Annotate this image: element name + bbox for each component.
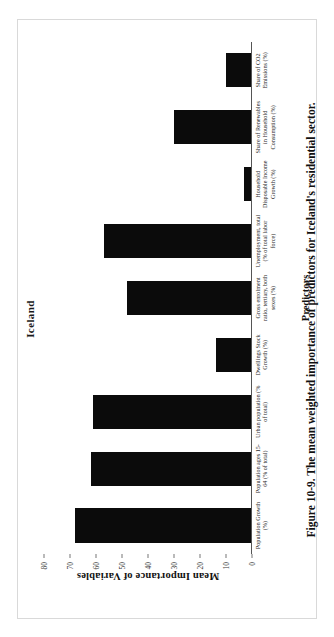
bar-series: [44, 42, 252, 554]
caption-holder: Figure 10-9. The mean weighted importanc…: [304, 60, 320, 580]
value-axis-tick-mark: [70, 554, 71, 558]
value-axis-tick-label: 50: [118, 562, 127, 570]
value-axis-tick-mark: [44, 554, 45, 558]
bar: [174, 110, 252, 144]
bar: [75, 508, 252, 542]
value-axis-tick-label: 20: [196, 562, 205, 570]
value-axis: 01020304050607080: [44, 554, 252, 618]
category-axis-tick-label: Share of CO2 Emissions (%): [254, 41, 300, 98]
value-axis-tick-label: 60: [92, 562, 101, 570]
figure-page: Iceland 01020304050607080 Mean Importanc…: [0, 0, 334, 637]
baseline-axis: [251, 42, 252, 554]
bar: [216, 337, 252, 371]
value-axis-tick-label: 30: [170, 562, 179, 570]
chart-frame: Iceland 01020304050607080 Mean Importanc…: [17, 19, 317, 619]
category-axis-tick-label: Household Disposable Income Growth (%): [254, 155, 300, 212]
bar-slot: [44, 326, 252, 383]
category-axis-tick-label: Share of Renewables in Household Consump…: [254, 98, 300, 155]
category-axis-tick-label: Population Growth (%): [254, 497, 300, 554]
plot-inner: [44, 42, 252, 554]
value-axis-tick-label: 0: [248, 562, 257, 566]
category-axis-labels: Population Growth (%)Population ages 15-…: [254, 42, 300, 554]
value-axis-title: Mean Importance of Variables: [44, 570, 252, 581]
value-axis-tick-mark: [226, 554, 227, 558]
value-axis-tick-label: 70: [66, 562, 75, 570]
bar: [226, 53, 252, 87]
value-axis-tick-mark: [200, 554, 201, 558]
value-axis-tick-mark: [174, 554, 175, 558]
chart-title: Iceland: [24, 20, 36, 618]
bar-slot: [44, 155, 252, 212]
bar: [93, 394, 252, 428]
category-axis-tick-label: Population ages 15-64 (% of total): [254, 440, 300, 497]
category-axis-tick-label: Urban population (% of total): [254, 383, 300, 440]
bar-slot: [44, 497, 252, 554]
figure-caption: Figure 10-9. The mean weighted importanc…: [304, 60, 318, 580]
rotated-figure-container: Iceland 01020304050607080 Mean Importanc…: [17, 19, 317, 619]
value-axis-tick-label: 10: [222, 562, 231, 570]
category-axis-tick-label: Gross enrolment ratio, tertiary, both se…: [254, 269, 300, 326]
value-axis-tick-mark: [96, 554, 97, 558]
value-axis-tick-label: 80: [40, 562, 49, 570]
bar-slot: [44, 440, 252, 497]
plot-area: [44, 42, 252, 554]
bar-slot: [44, 41, 252, 98]
value-axis-tick-mark: [252, 554, 253, 558]
value-axis-tick-label: 40: [144, 562, 153, 570]
bar: [127, 280, 252, 314]
bar-slot: [44, 212, 252, 269]
value-axis-tick-mark: [122, 554, 123, 558]
category-axis-tick-label: Dwellings Stock Growth (%): [254, 326, 300, 383]
bar-slot: [44, 98, 252, 155]
bar-slot: [44, 269, 252, 326]
category-axis-tick-label: Unemployment, total (% of total labor fo…: [254, 212, 300, 269]
bar: [91, 451, 252, 485]
value-axis-tick-mark: [148, 554, 149, 558]
bar: [104, 224, 252, 258]
bar-slot: [44, 383, 252, 440]
